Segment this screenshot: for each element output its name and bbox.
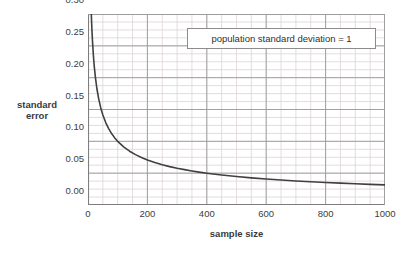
x-tick-label: 800 <box>301 208 351 220</box>
chart-container: standard error 0.000.050.100.150.200.250… <box>0 0 412 265</box>
y-tick-label: 0.10 <box>50 122 84 132</box>
y-tick-label: 0.15 <box>50 91 84 101</box>
annotation-text: population standard deviation = 1 <box>211 33 351 44</box>
x-axis-tick-labels: 02004006008001000 <box>88 208 385 222</box>
x-axis-title: sample size <box>88 228 385 239</box>
x-tick-label: 400 <box>182 208 232 220</box>
y-tick-label: 0.05 <box>50 154 84 164</box>
annotation-textbox: population standard deviation = 1 <box>187 28 376 49</box>
y-tick-label: 0.00 <box>50 186 84 196</box>
x-tick-label: 600 <box>241 208 291 220</box>
x-tick-label: 200 <box>122 208 172 220</box>
y-axis-tick-labels: 0.000.050.100.150.200.250.30 <box>46 0 84 191</box>
x-tick-label: 1000 <box>360 208 410 220</box>
y-tick-label: 0.20 <box>50 59 84 69</box>
x-tick-label: 0 <box>63 208 113 220</box>
y-tick-label: 0.30 <box>50 0 84 5</box>
y-tick-label: 0.25 <box>50 27 84 37</box>
